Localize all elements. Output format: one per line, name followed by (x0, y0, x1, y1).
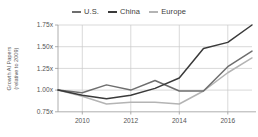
x-tick-label: 2010 (75, 117, 90, 124)
y-tick-label: 1.25x (37, 65, 54, 72)
plot-area: 1.75x 1.50x 1.25x 1.00x 0.75x 2010 2012 … (0, 0, 258, 137)
x-tick-label: 2016 (220, 117, 235, 124)
x-tick-label: 2012 (123, 117, 138, 124)
y-tick-label: 0.75x (37, 108, 54, 115)
y-tick-label: 1.75x (37, 21, 54, 28)
x-tick-label: 2014 (172, 117, 187, 124)
series-line-china[interactable] (58, 25, 252, 99)
y-tick-label: 1.50x (37, 43, 54, 50)
chart-container: U.S. China Europe Growth AI Papers (rela… (0, 0, 258, 137)
x-tick-marks (82, 112, 228, 115)
y-tick-label: 1.00x (37, 86, 54, 93)
y-tick-marks (55, 25, 58, 112)
data-series-group (58, 25, 252, 104)
series-line-us[interactable] (58, 51, 252, 93)
